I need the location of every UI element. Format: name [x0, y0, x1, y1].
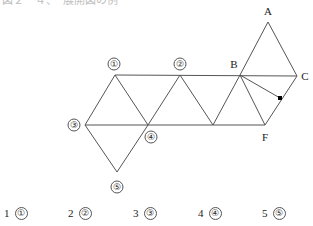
legend-item-4: 4④: [198, 205, 222, 221]
legend-number-5: 5: [262, 207, 268, 220]
vertex-label-c: C: [301, 71, 308, 82]
legend-symbol-3: ③: [144, 207, 157, 220]
edge-p2-t1: [180, 75, 213, 125]
edge-p1-p3: [85, 75, 115, 125]
top-rail: [115, 75, 297, 76]
legend-number-1: 1: [4, 207, 10, 220]
legend-symbol-2: ②: [79, 207, 92, 220]
legend-item-3: 3③: [133, 205, 157, 221]
vertex-label-f: F: [262, 132, 268, 143]
triangle-net-drawing: [0, 0, 313, 226]
legend-number-3: 3: [133, 207, 139, 220]
edge-f-c: [265, 76, 297, 125]
edge-a-c: [268, 22, 297, 76]
legend-number-2: 2: [68, 207, 74, 220]
legend-symbol-1: ①: [15, 207, 28, 220]
legend-symbol-4: ④: [209, 207, 222, 220]
edge-b-a: [240, 22, 268, 75]
marked-point: [278, 96, 282, 100]
edge-group: [85, 22, 297, 172]
edge-p2-p4: [148, 75, 180, 125]
legend-item-2: 2②: [68, 205, 92, 221]
marker-group: [278, 96, 282, 100]
edge-p1-p4: [115, 75, 148, 125]
circled-label-4: ④: [145, 131, 158, 144]
vertex-label-b: B: [230, 59, 237, 70]
edge-p5-p4: [117, 125, 148, 172]
legend-item-5: 5⑤: [262, 205, 286, 221]
legend-row: 1①2②3③4④5⑤: [0, 205, 313, 225]
edge-b-t1: [213, 75, 240, 125]
legend-symbol-5: ⑤: [273, 207, 286, 220]
vertex-label-a: A: [264, 6, 272, 17]
circled-label-3: ③: [68, 119, 81, 132]
circled-label-1: ①: [108, 58, 121, 71]
figure-root: 図２－４、 展開図の例 ABCF ①②③④⑤ 1①2②3③4④5⑤: [0, 0, 313, 226]
edge-p3-p5: [85, 125, 117, 172]
legend-item-1: 1①: [4, 205, 28, 221]
circled-label-5: ⑤: [111, 181, 124, 194]
circled-label-2: ②: [174, 58, 187, 71]
legend-number-4: 4: [198, 207, 204, 220]
